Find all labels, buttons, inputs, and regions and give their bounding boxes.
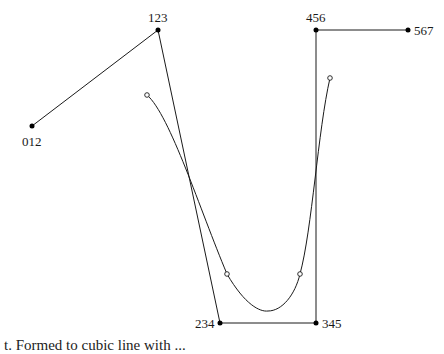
control-point-234 (218, 321, 223, 326)
spline-curve (147, 78, 330, 311)
curve-knot-marker (145, 93, 150, 98)
label-123: 123 (148, 10, 168, 25)
label-456: 456 (306, 10, 326, 25)
curve-knot-marker (298, 272, 303, 277)
control-point-567 (406, 28, 411, 33)
figure-caption: t. Formed to cubic line with ... (4, 337, 186, 354)
label-012: 012 (22, 134, 42, 149)
label-345: 345 (322, 316, 342, 331)
curve-knot-marker (328, 76, 333, 81)
control-point-012 (30, 124, 35, 129)
control-polygon (32, 30, 408, 323)
label-567: 567 (414, 23, 434, 38)
control-point-456 (314, 28, 319, 33)
control-point-345 (314, 321, 319, 326)
label-234: 234 (195, 316, 215, 331)
control-point-123 (156, 28, 161, 33)
curve-knot-marker (225, 272, 230, 277)
